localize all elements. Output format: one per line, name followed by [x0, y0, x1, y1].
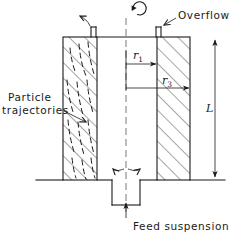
overflow-weir-right [156, 27, 161, 37]
centrifuge-diagram: Overflow r1 r3 L Particle trajectories [0, 0, 243, 241]
right-annulus-region [157, 37, 190, 180]
r1-label: r1 [133, 49, 143, 64]
feed-suspension-label: Feed suspension [133, 220, 229, 232]
centrifuge-schematic-svg: Overflow r1 r3 L Particle trajectories [0, 0, 243, 241]
overflow-label: Overflow [178, 9, 230, 21]
overflow-leader-arrow [164, 18, 176, 25]
particle-label-line1: Particle [8, 91, 52, 103]
feed-split-arrow-left [113, 169, 124, 171]
rotation-arrow-icon [132, 2, 147, 15]
length-label: L [205, 102, 213, 115]
feed-split-arrow-right [128, 169, 140, 171]
overflow-flow-arrow-left [80, 16, 90, 26]
particle-label-line2: trajectories [2, 104, 69, 116]
overflow-weir-left [91, 27, 96, 37]
